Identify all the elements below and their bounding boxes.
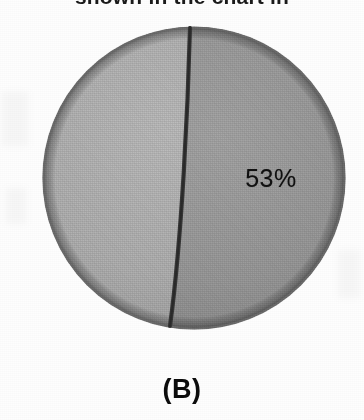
pie-slice-right-percent-label: 53% [236, 164, 306, 193]
figure-root: shown in the chart in [0, 0, 364, 420]
scan-smudge-left-2 [6, 188, 26, 224]
scan-smudge-left [2, 92, 28, 146]
figure-title: shown in the chart in [0, 0, 364, 13]
panel-caption: (B) [0, 374, 364, 405]
figure-title-text: shown in the chart in [0, 0, 364, 9]
